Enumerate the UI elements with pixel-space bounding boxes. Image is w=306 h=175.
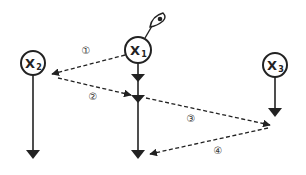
node-x1-subscript: 1	[141, 50, 147, 59]
timeline-x1	[131, 63, 145, 159]
arrowhead-down-icon	[131, 74, 145, 82]
node-x2-subscript: 2	[36, 63, 42, 72]
node-x2-letter: X	[25, 56, 35, 71]
step-label-3: ③	[187, 113, 196, 124]
node-x3-letter: X	[267, 58, 277, 73]
eye-icon	[145, 13, 165, 38]
step-label-2: ②	[89, 91, 98, 102]
arrowhead-down-icon	[26, 150, 40, 159]
message-1	[52, 55, 125, 74]
timeline-x3	[268, 77, 282, 117]
node-x3-subscript: 3	[278, 65, 284, 74]
node-x2: X 2	[21, 51, 45, 75]
arrowhead-down-icon	[131, 150, 145, 159]
arrowhead-down-icon	[131, 95, 145, 103]
node-x1-letter: X	[130, 43, 140, 58]
step-label-4: ④	[214, 145, 223, 156]
step-label-1: ①	[82, 45, 91, 56]
arrowhead-down-icon	[268, 108, 282, 117]
node-x1: X 1	[125, 37, 151, 63]
node-x3: X 3	[263, 53, 287, 77]
message-3	[146, 98, 270, 125]
message-4	[150, 128, 268, 154]
timeline-x2	[26, 75, 40, 159]
message-flow-diagram: ① ② ③ ④ X 1 X 2 X 3	[0, 0, 306, 175]
